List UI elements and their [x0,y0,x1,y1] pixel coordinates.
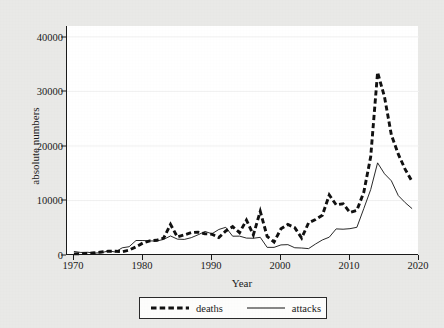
x-tick-mark [142,255,143,260]
x-tick-label: 1980 [131,260,152,271]
x-tick-mark [418,255,419,260]
x-tick-mark [211,255,212,260]
y-tick-label: 40000 [17,31,63,42]
x-axis-title: Year [66,277,418,289]
plot-area [66,26,418,255]
series-line-deaths [74,72,412,254]
y-axis-title: absolute numbers [29,71,41,221]
legend-label-deaths: deaths [196,303,223,314]
legend-key-dashed-icon [150,303,190,313]
x-tick-label: 1990 [200,260,221,271]
x-tick-mark [73,255,74,260]
series-canvas [67,26,419,255]
chart-legend: deaths attacks [139,297,327,319]
x-tick-label: 2010 [338,260,359,271]
legend-label-attacks: attacks [292,303,321,314]
x-tick-mark [280,255,281,260]
legend-key-solid-icon [246,303,286,313]
legend-item-attacks: attacks [246,298,321,318]
x-tick-label: 2000 [269,260,290,271]
chart-figure: 010000200003000040000 197019801990200020… [0,0,444,328]
x-tick-label: 2020 [408,260,429,271]
series-line-attacks [74,163,412,253]
x-tick-mark [349,255,350,260]
y-tick-label: 0 [17,250,63,261]
x-tick-label: 1970 [62,260,83,271]
legend-item-deaths: deaths [150,298,223,318]
